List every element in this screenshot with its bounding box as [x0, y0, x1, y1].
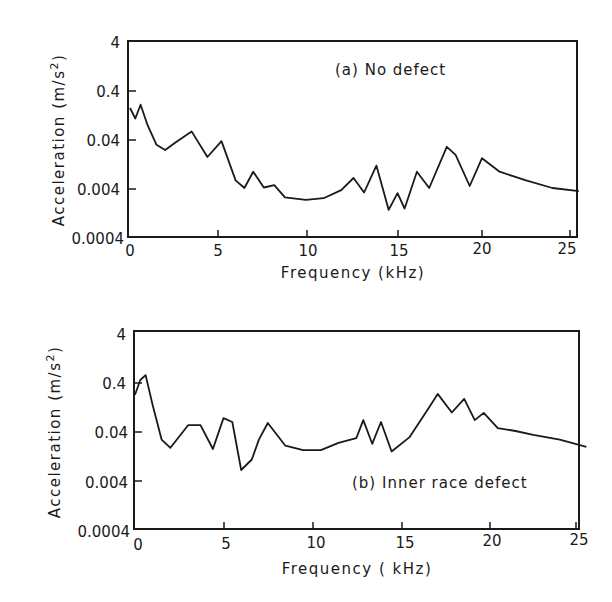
x-tick-label: 10 [298, 242, 317, 260]
y-tick-label: 4 [110, 34, 120, 52]
figure: 4 0.4 0.04 0.004 0.0004 0 5 10 15 20 25 … [0, 0, 612, 602]
x-tick-label: 25 [569, 531, 588, 549]
chart-panel-b: 4 0.4 0.04 0.004 0.0004 0 5 10 15 20 25 … [44, 326, 589, 578]
x-ticks-b [224, 522, 576, 529]
x-tick-label: 25 [557, 240, 576, 258]
x-ticks-a [218, 230, 570, 237]
y-tick-label: 0.04 [87, 132, 120, 150]
x-tick-label: 10 [306, 534, 325, 552]
x-axis-label-a: Frequency (kHz) [281, 264, 425, 282]
y-tick-label: 0.4 [96, 83, 120, 101]
y-tick-label: 0.0004 [72, 230, 125, 248]
y-tick-labels-a: 4 0.4 0.04 0.004 0.0004 [72, 34, 125, 248]
y-axis-label-b: Acceleration (m/s2) [44, 346, 64, 519]
x-tick-label: 0 [125, 242, 135, 260]
x-tick-label: 0 [133, 536, 143, 554]
x-tick-label: 5 [221, 535, 231, 553]
x-tick-label: 20 [472, 240, 491, 258]
y-tick-label: 0.04 [95, 424, 128, 442]
y-tick-label: 0.004 [85, 474, 128, 492]
x-tick-labels-a: 0 5 10 15 20 25 [125, 240, 576, 260]
y-tick-label: 0.4 [102, 375, 126, 393]
x-tick-label: 15 [395, 534, 414, 552]
x-tick-labels-b: 0 5 10 15 20 25 [133, 531, 588, 554]
x-tick-label: 20 [482, 532, 501, 550]
y-ticks-a [128, 91, 136, 189]
y-axis-label-a: Acceleration (m/s2) [48, 54, 68, 227]
y-tick-labels-b: 4 0.4 0.04 0.004 0.0004 [78, 326, 131, 541]
data-line-no-defect [130, 105, 579, 210]
panel-title-a: (a) No defect [335, 61, 446, 79]
panel-title-b: (b) Inner race defect [352, 474, 528, 492]
chart-panel-a: 4 0.4 0.04 0.004 0.0004 0 5 10 15 20 25 … [48, 34, 579, 282]
x-tick-label: 15 [389, 242, 408, 260]
y-tick-label: 0.004 [77, 181, 120, 199]
x-axis-label-b: Frequency ( kHz) [282, 560, 433, 578]
x-tick-label: 5 [213, 242, 223, 260]
y-tick-label: 0.0004 [78, 523, 131, 541]
y-ticks-b [134, 383, 142, 481]
y-tick-label: 4 [116, 326, 126, 344]
data-line-inner-race-defect [135, 375, 586, 470]
